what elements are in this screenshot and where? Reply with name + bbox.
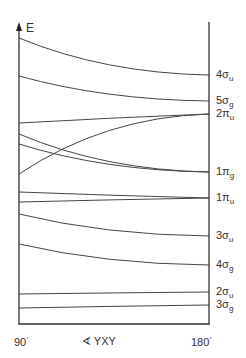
y-axis-arrow-icon <box>16 22 22 31</box>
orbital-curve <box>19 144 209 172</box>
orbital-label: 4σg <box>216 259 233 273</box>
y-axis-label: E <box>26 22 34 34</box>
x-left-label: 90° <box>14 336 29 348</box>
orbital-label: 2πu <box>216 108 234 122</box>
orbital-label: 1πu <box>216 192 234 206</box>
orbital-label: 3σg <box>216 299 233 313</box>
degree-symbol: ° <box>209 336 211 342</box>
orbital-curve <box>19 134 209 172</box>
x-left-value: 90 <box>14 336 26 348</box>
orbital-curve <box>19 244 209 265</box>
orbital-curve <box>19 76 209 101</box>
walsh-diagram <box>0 0 246 358</box>
orbital-curve <box>19 38 209 75</box>
orbital-label: 4σu <box>216 69 233 83</box>
orbital-label: 1πg <box>216 166 234 180</box>
orbital-curves <box>19 38 209 308</box>
x-right-label: 180° <box>191 336 212 348</box>
orbital-curve <box>19 292 209 294</box>
orbital-curve <box>19 305 209 308</box>
degree-symbol: ° <box>26 336 28 342</box>
orbital-curve <box>19 214 209 236</box>
orbital-curve <box>19 198 209 202</box>
orbital-curve <box>19 114 209 123</box>
x-axis-label: ∢ YXY <box>82 336 116 347</box>
x-right-value: 180 <box>191 336 209 348</box>
orbital-label: 3σu <box>216 230 233 244</box>
orbital-curve <box>19 192 209 198</box>
